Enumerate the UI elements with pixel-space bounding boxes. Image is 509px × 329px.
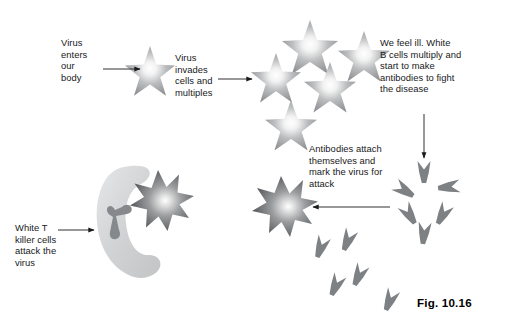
- virus-star-single: [125, 46, 175, 96]
- virus-star-cluster-4: [304, 62, 356, 113]
- label-white-t-killer-cells: White T killer cells attack the virus: [15, 222, 85, 268]
- label-virus-enters-body: Virus enters our body: [61, 37, 113, 83]
- virus-star-cluster-3: [251, 53, 301, 102]
- antibody-free-floating: [311, 227, 400, 312]
- figure-immune-response: Virus enters our body Virus invades cell…: [0, 0, 509, 329]
- label-we-feel-ill-b-cells: We feel ill. White B cells multiply and …: [380, 37, 490, 95]
- virus-star-cluster: [251, 20, 390, 151]
- label-antibodies-attach: Antibodies attach themselves and mark th…: [309, 143, 409, 189]
- figure-caption: Fig. 10.16: [417, 296, 472, 309]
- label-virus-invades-cells: Virus invades cells and multiples: [175, 52, 231, 98]
- t-killer-cell: [97, 166, 194, 278]
